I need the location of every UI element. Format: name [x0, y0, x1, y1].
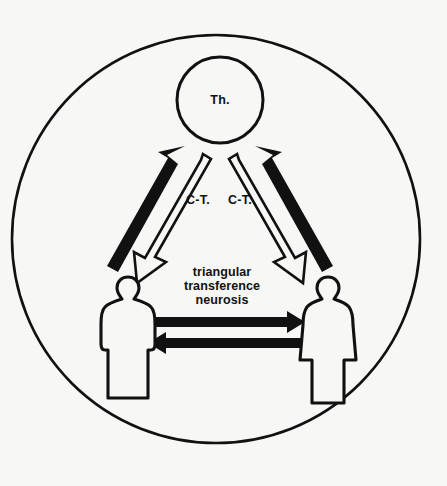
patient-right-silhouette — [300, 277, 356, 403]
triangular-transference-diagram: Th. C-T. C-T. triangular transference ne… — [0, 0, 447, 486]
countertransference-left-label: C-T. — [186, 193, 210, 207]
countertransference-right-label: C-T. — [228, 193, 252, 207]
patient-left-silhouette — [101, 277, 155, 398]
therapist-label: Th. — [210, 93, 229, 107]
center-caption-line-3: neurosis — [196, 293, 249, 307]
arrow-patient-to-patient-left-shape — [148, 332, 305, 354]
patient-right-figure — [300, 277, 356, 403]
arrow-patient-to-patient-right-shape — [148, 311, 305, 333]
arrow-patient-to-patient-left — [148, 332, 305, 354]
arrow-patient-to-patient-right — [148, 311, 305, 333]
diagram-canvas: Th. C-T. C-T. triangular transference ne… — [0, 0, 447, 486]
patient-left-figure — [101, 277, 155, 398]
center-caption-line-2: transference — [184, 279, 260, 293]
center-caption-line-1: triangular — [193, 265, 252, 279]
